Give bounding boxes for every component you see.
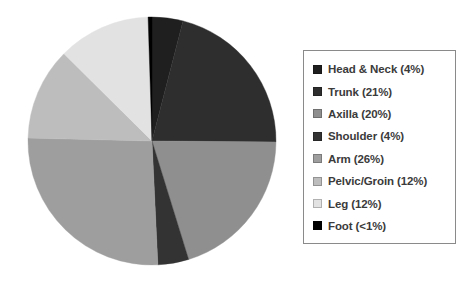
legend-item-label: Leg (12%) bbox=[328, 198, 381, 210]
legend-swatch-icon bbox=[313, 177, 322, 186]
legend-item: Axilla (20%) bbox=[313, 103, 455, 125]
legend-swatch-icon bbox=[313, 154, 322, 163]
legend-swatch-icon bbox=[313, 65, 322, 74]
legend-item: Head & Neck (4%) bbox=[313, 58, 455, 80]
legend-swatch-icon bbox=[313, 87, 322, 96]
legend-item-label: Head & Neck (4%) bbox=[328, 63, 424, 75]
chart-legend: Head & Neck (4%)Trunk (21%)Axilla (20%)S… bbox=[303, 50, 456, 244]
legend-item-label: Shoulder (4%) bbox=[328, 130, 404, 142]
legend-item-label: Foot (<1%) bbox=[328, 220, 386, 232]
legend-item: Trunk (21%) bbox=[313, 80, 455, 102]
pie-chart-svg bbox=[27, 16, 277, 266]
legend-item: Leg (12%) bbox=[313, 192, 455, 214]
legend-item: Foot (<1%) bbox=[313, 215, 455, 237]
legend-item-label: Axilla (20%) bbox=[328, 108, 391, 120]
pie-chart-figure: Head & Neck (4%)Trunk (21%)Axilla (20%)S… bbox=[0, 0, 476, 285]
legend-swatch-icon bbox=[313, 221, 322, 230]
pie-slice-group bbox=[28, 17, 276, 265]
pie-slice bbox=[28, 138, 158, 265]
legend-swatch-icon bbox=[313, 109, 322, 118]
legend-swatch-icon bbox=[313, 132, 322, 141]
pie-chart-plot-area bbox=[27, 16, 277, 266]
legend-item-label: Pelvic/Groin (12%) bbox=[328, 175, 427, 187]
legend-item-label: Arm (26%) bbox=[328, 153, 384, 165]
legend-item-label: Trunk (21%) bbox=[328, 86, 392, 98]
legend-item: Pelvic/Groin (12%) bbox=[313, 170, 455, 192]
legend-swatch-icon bbox=[313, 199, 322, 208]
legend-item: Shoulder (4%) bbox=[313, 125, 455, 147]
legend-item: Arm (26%) bbox=[313, 148, 455, 170]
